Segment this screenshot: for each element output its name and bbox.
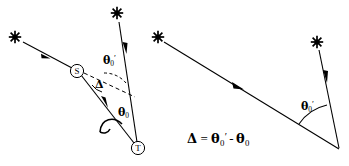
arc-theta-zero-lower <box>100 119 122 132</box>
label-theta-zero-lower: θ0 <box>118 107 129 120</box>
equation-theta1-glyph: θ <box>211 131 220 146</box>
equation-theta2-subscript: 0 <box>245 138 250 148</box>
node-label-target: T <box>133 144 143 153</box>
arc-theta-zero-lower-hook <box>100 129 110 133</box>
equation-theta2-glyph: θ <box>236 131 245 146</box>
star-left-icon <box>152 31 164 43</box>
equation-minus-glyph: - <box>229 131 234 146</box>
equation-theta1-prime: ′ <box>225 131 228 142</box>
label-delta: Δ <box>95 79 104 90</box>
label-theta-zero-prime-vertex: θ0′ <box>301 100 314 113</box>
label-theta-zero-prime-upper: θ0′ <box>103 54 116 67</box>
star-upper-left-icon <box>9 31 21 43</box>
equation-delta: Δ=θ0′-θ0 <box>187 131 250 148</box>
left-panel-geometry <box>9 7 145 155</box>
equation-relation-glyph: = <box>200 131 208 146</box>
ray-star-to-vertex-short <box>319 50 339 148</box>
ray-star-to-source <box>23 42 72 68</box>
figure-canvas: S T θ0′ Δ θ0 θ0′ Δ=θ0′-θ0 <box>0 0 349 166</box>
arc-theta-zero-prime-upper <box>104 73 126 83</box>
arrowhead-long-ray <box>232 82 244 90</box>
star-top-icon <box>111 7 123 19</box>
theta-prime-upper: ′ <box>114 53 116 63</box>
delta-glyph: Δ <box>95 78 104 91</box>
equation-delta-glyph: Δ <box>187 131 197 146</box>
node-label-source: S <box>72 67 82 76</box>
theta-prime-vertex: ′ <box>312 99 314 109</box>
diagram-svg <box>0 0 349 166</box>
star-right-icon <box>311 36 323 48</box>
theta-subscript-lower: 0 <box>125 111 129 120</box>
